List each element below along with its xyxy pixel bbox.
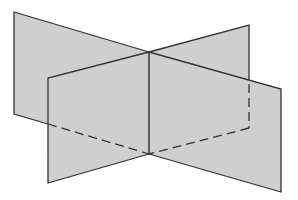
plane-a-right-front — [149, 52, 281, 192]
intersecting-planes-diagram — [0, 0, 298, 200]
